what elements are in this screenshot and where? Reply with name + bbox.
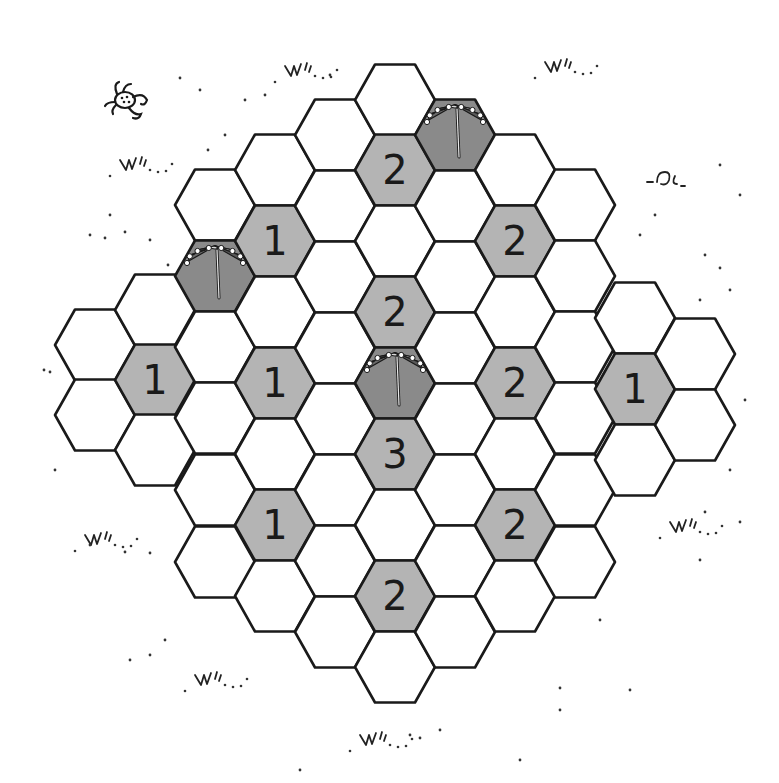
sand-dot bbox=[124, 551, 127, 554]
grass-tuft-icon bbox=[659, 519, 724, 539]
crab-icon bbox=[105, 82, 147, 119]
grass-tuft-icon bbox=[534, 59, 599, 79]
sand-dot bbox=[149, 552, 152, 555]
clue-number: 1 bbox=[262, 218, 287, 264]
clue-number: 2 bbox=[502, 502, 527, 548]
sand-dot bbox=[629, 689, 632, 692]
sand-dot bbox=[129, 659, 132, 662]
clue-number: 1 bbox=[262, 360, 287, 406]
sand-dot bbox=[149, 239, 152, 242]
sand-dot bbox=[654, 214, 657, 217]
sand-dot bbox=[199, 89, 202, 92]
game-board: 212211213122 bbox=[0, 0, 779, 783]
sand-dot bbox=[89, 234, 92, 237]
clue-number: 1 bbox=[142, 357, 167, 403]
sand-dot bbox=[719, 267, 722, 270]
sand-dot bbox=[409, 734, 412, 737]
grass-tuft-icon bbox=[109, 157, 174, 177]
sand-dot bbox=[49, 371, 52, 374]
sand-dot bbox=[519, 759, 522, 762]
clue-number: 1 bbox=[622, 366, 647, 412]
clue-number: 1 bbox=[262, 502, 287, 548]
sand-dot bbox=[719, 164, 722, 167]
sand-dot bbox=[729, 469, 732, 472]
clue-number: 2 bbox=[502, 360, 527, 406]
shell-squiggle-icon bbox=[647, 172, 685, 186]
grass-tuft-icon bbox=[274, 63, 339, 83]
sand-dot bbox=[439, 729, 442, 732]
sand-dot bbox=[179, 77, 182, 80]
sand-dot bbox=[744, 399, 747, 402]
sand-dot bbox=[109, 214, 112, 217]
sand-dot bbox=[419, 737, 422, 740]
grass-tuft-icon bbox=[74, 532, 139, 552]
clue-number: 2 bbox=[502, 218, 527, 264]
sand-dot bbox=[639, 234, 642, 237]
clue-number: 2 bbox=[382, 289, 407, 335]
clue-number: 2 bbox=[382, 573, 407, 619]
sand-dot bbox=[224, 134, 227, 137]
sand-dot bbox=[54, 469, 57, 472]
sand-dot bbox=[599, 619, 602, 622]
sand-dot bbox=[164, 639, 167, 642]
sand-dot bbox=[149, 654, 152, 657]
sand-dot bbox=[739, 194, 742, 197]
sand-dot bbox=[729, 289, 732, 292]
sand-dot bbox=[43, 369, 46, 372]
sand-dot bbox=[89, 544, 92, 547]
sand-dot bbox=[167, 264, 170, 267]
sand-dot bbox=[559, 687, 562, 690]
sand-dot bbox=[699, 559, 702, 562]
sand-dot bbox=[207, 149, 210, 152]
grass-tuft-icon bbox=[184, 672, 249, 692]
sand-dot bbox=[244, 99, 247, 102]
sand-dot bbox=[104, 237, 107, 240]
sand-dot bbox=[124, 231, 127, 234]
sand-dot bbox=[704, 511, 707, 514]
clue-number: 3 bbox=[382, 431, 407, 477]
grass-tuft-icon bbox=[349, 732, 414, 752]
sand-dot bbox=[699, 299, 702, 302]
clue-number: 2 bbox=[382, 147, 407, 193]
sand-dot bbox=[559, 709, 562, 712]
sand-dot bbox=[299, 769, 302, 772]
sand-dot bbox=[264, 94, 267, 97]
sand-dot bbox=[329, 74, 332, 77]
sand-dot bbox=[739, 521, 742, 524]
sand-dot bbox=[704, 254, 707, 257]
